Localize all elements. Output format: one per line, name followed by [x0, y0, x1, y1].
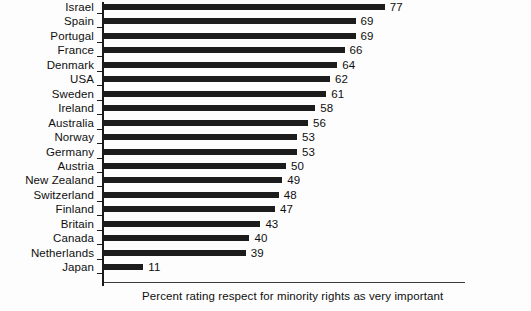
category-label: France: [0, 43, 94, 57]
bar-row: Finland47: [0, 202, 531, 216]
bar: [103, 76, 330, 82]
bar-value-label: 62: [335, 72, 348, 86]
bar-row: Portugal69: [0, 29, 531, 43]
category-label: Germany: [0, 145, 94, 159]
bar-row: Denmark64: [0, 58, 531, 72]
category-label: Ireland: [0, 101, 94, 115]
bar-row: New Zealand49: [0, 173, 531, 187]
category-label: Norway: [0, 130, 94, 144]
bar-value-label: 64: [342, 58, 355, 72]
category-label: Sweden: [0, 87, 94, 101]
category-label: Spain: [0, 14, 94, 28]
bar-row: France66: [0, 43, 531, 57]
bar-row: Israel77: [0, 0, 531, 14]
bar-value-label: 49: [287, 173, 300, 187]
bar-value-label: 53: [302, 130, 315, 144]
bar: [103, 264, 143, 270]
category-label: Canada: [0, 231, 94, 245]
bar-row: Spain69: [0, 14, 531, 28]
bar: [103, 91, 326, 97]
bar-value-label: 43: [265, 217, 278, 231]
bar-value-label: 50: [291, 159, 304, 173]
bar: [103, 134, 297, 140]
bar: [103, 163, 286, 169]
bar-row: Netherlands39: [0, 246, 531, 260]
bar: [103, 18, 356, 24]
bar: [103, 177, 282, 183]
bar-value-label: 69: [361, 14, 374, 28]
category-label: Britain: [0, 217, 94, 231]
category-label: Austria: [0, 159, 94, 173]
category-label: Portugal: [0, 29, 94, 43]
bar-row: Sweden61: [0, 87, 531, 101]
bar-row: Norway53: [0, 130, 531, 144]
bar: [103, 149, 297, 155]
caption-divider: [104, 282, 465, 283]
category-label: Australia: [0, 116, 94, 130]
bar-row: Australia56: [0, 116, 531, 130]
bar-value-label: 61: [331, 87, 344, 101]
bar-row: Japan11: [0, 260, 531, 274]
bar: [103, 62, 337, 68]
bar-value-label: 69: [361, 29, 374, 43]
category-label: Switzerland: [0, 188, 94, 202]
bar-value-label: 58: [320, 101, 333, 115]
bar: [103, 105, 315, 111]
category-label: New Zealand: [0, 173, 94, 187]
category-label: Israel: [0, 0, 94, 14]
chart-caption: Percent rating respect for minority righ…: [142, 289, 443, 304]
bar: [103, 47, 345, 53]
bar-value-label: 40: [254, 231, 267, 245]
bar-row: Germany53: [0, 145, 531, 159]
plot-area: Israel77Spain69Portugal69France66Denmark…: [0, 0, 531, 281]
bar: [103, 206, 275, 212]
bar: [103, 33, 356, 39]
bar-row: Switzerland48: [0, 188, 531, 202]
bar: [103, 120, 308, 126]
bar: [103, 221, 260, 227]
bar-row: Canada40: [0, 231, 531, 245]
bar-row: Austria50: [0, 159, 531, 173]
bar-value-label: 66: [350, 43, 363, 57]
bar: [103, 4, 385, 10]
bar: [103, 250, 246, 256]
axis-tick: [97, 273, 103, 274]
bar-chart-figure: Israel77Spain69Portugal69France66Denmark…: [0, 0, 531, 311]
bar-value-label: 56: [313, 116, 326, 130]
category-label: Denmark: [0, 58, 94, 72]
bar: [103, 192, 279, 198]
bar-row: USA62: [0, 72, 531, 86]
bar-row: Ireland58: [0, 101, 531, 115]
category-label: Finland: [0, 202, 94, 216]
bar-value-label: 11: [148, 260, 160, 274]
bar-row: Britain43: [0, 217, 531, 231]
bar-value-label: 48: [284, 188, 297, 202]
bar-value-label: 53: [302, 145, 315, 159]
bar: [103, 235, 249, 241]
bar-value-label: 77: [390, 0, 403, 14]
bar-value-label: 39: [251, 246, 264, 260]
category-label: USA: [0, 72, 94, 86]
category-label: Japan: [0, 260, 94, 274]
bar-value-label: 47: [280, 202, 293, 216]
category-label: Netherlands: [0, 246, 94, 260]
